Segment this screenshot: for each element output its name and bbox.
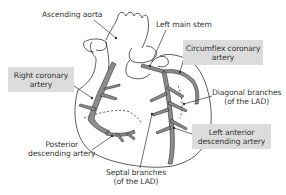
label-left-main-stem: Left main stem [156, 20, 212, 29]
leader-ascending-aorta [94, 20, 116, 38]
label-line: Septal branches [106, 168, 166, 177]
label-line: (of the LAD) [212, 97, 281, 106]
leader-lad [174, 128, 192, 134]
label-circumflex-coronary-artery: Circumflex coronary artery [183, 40, 263, 65]
label-line: Right coronary [14, 71, 69, 80]
arteries [79, 62, 199, 164]
label-line: artery [30, 80, 52, 89]
label-posterior-descending-artery: Posterior descending artery [28, 140, 95, 158]
label-line: Left anterior [209, 128, 255, 137]
label-line: artery [212, 53, 234, 62]
label-line: Diagonal branches [212, 88, 281, 97]
septal-branch [156, 126, 171, 134]
label-right-coronary-artery: Right coronary artery [8, 67, 74, 92]
left-main-stem [141, 64, 164, 73]
leader-septal [140, 114, 152, 168]
label-line: descending artery [28, 149, 95, 158]
label-septal-branches: Septal branches (of the LAD) [106, 168, 166, 186]
label-line: (of the LAD) [106, 177, 166, 186]
label-line: descending artery [198, 137, 265, 146]
label-diagonal-branches: Diagonal branches (of the LAD) [212, 88, 281, 106]
septal-branch [152, 108, 169, 116]
label-ascending-aorta: Ascending aorta [42, 10, 102, 19]
label-line: Posterior [28, 140, 95, 149]
label-left-anterior-descending-artery: Left anterior descending artery [192, 124, 271, 149]
septal-branch [150, 92, 167, 102]
label-line: Circumflex coronary [186, 44, 261, 53]
